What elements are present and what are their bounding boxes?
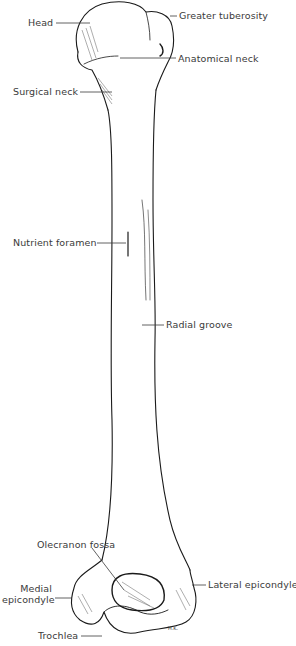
label-medial-epicondyle-line1: Medial: [10, 583, 52, 594]
humeral-head-outline: [76, 2, 173, 90]
label-olecranon-fossa: Olecranon fossa: [37, 539, 115, 550]
distal-end-outline: [72, 560, 196, 633]
label-anatomical-neck: Anatomical neck: [178, 53, 259, 64]
label-lateral-epicondyle: Lateral epicondyle: [208, 579, 296, 590]
label-trochlea: Trochlea: [38, 630, 78, 641]
label-head: Head: [28, 17, 53, 28]
artist-signature: H.K.: [168, 625, 179, 631]
shaft-medial-edge: [102, 110, 112, 560]
label-nutrient-foramen: Nutrient foramen: [13, 237, 97, 248]
leader-olecranon-fossa: [92, 548, 124, 590]
label-medial-epicondyle-line2: epicondyle: [2, 594, 52, 605]
label-surgical-neck: Surgical neck: [13, 86, 78, 97]
label-radial-groove: Radial groove: [166, 319, 232, 330]
label-greater-tuberosity: Greater tuberosity: [179, 10, 268, 21]
shaft-lateral-edge: [153, 90, 190, 570]
